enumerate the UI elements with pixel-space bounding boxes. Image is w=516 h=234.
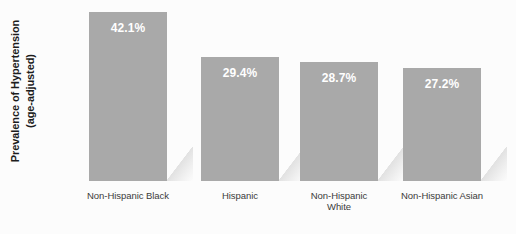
bar-group-hispanic: 29.4% Hispanic <box>201 57 279 181</box>
bar-group-non-hispanic-asian: 27.2% Non-Hispanic Asian <box>403 68 481 181</box>
y-axis-title-line-1: Prevalence of Hypertension <box>9 20 22 162</box>
bar-hispanic: 29.4% <box>201 57 279 181</box>
bar-value-non-hispanic-asian: 27.2% <box>403 77 481 91</box>
bar-value-non-hispanic-white: 28.7% <box>300 71 378 85</box>
bar-value-hispanic: 29.4% <box>201 66 279 80</box>
plot-area: 42.1% Non-Hispanic Black 29.4% Hispanic … <box>60 0 516 234</box>
bar-group-non-hispanic-white: 28.7% Non-Hispanic White <box>300 62 378 181</box>
bar-non-hispanic-asian: 27.2% <box>403 68 481 181</box>
category-label-non-hispanic-white: Non-Hispanic White <box>302 190 376 212</box>
bar-non-hispanic-white: 28.7% <box>300 62 378 181</box>
category-label-hispanic: Hispanic <box>175 190 305 201</box>
bar-non-hispanic-black: 42.1% <box>89 12 167 181</box>
category-label-non-hispanic-black: Non-Hispanic Black <box>63 190 193 201</box>
bar-group-non-hispanic-black: 42.1% Non-Hispanic Black <box>89 12 167 181</box>
bar-value-non-hispanic-black: 42.1% <box>89 21 167 35</box>
y-axis-title-line-2: (age-adjusted) <box>24 54 37 128</box>
y-axis-title: Prevalence of Hypertension (age-adjusted… <box>0 0 46 182</box>
category-label-non-hispanic-asian: Non-Hispanic Asian <box>377 190 507 201</box>
hypertension-prevalence-bar-chart: Prevalence of Hypertension (age-adjusted… <box>0 0 516 234</box>
